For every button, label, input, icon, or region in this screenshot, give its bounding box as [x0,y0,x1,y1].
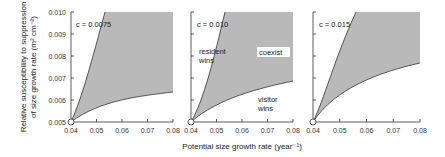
y-axis-title-line2: of size growth rate (m² cm⁻²) [29,16,38,118]
svg-text:0.006: 0.006 [48,97,66,104]
panel-1: 0.010 0.009 0.008 0.007 0.006 0.005 0.04… [48,9,179,134]
x-ticks [340,119,420,122]
x-ticks [97,119,174,122]
coexist-label: coexist [259,48,283,57]
x-axis-title: Potential size growth rate (year⁻¹) [182,142,302,151]
y-ticks [313,12,316,100]
resident-wins-label-2: wins [198,56,214,65]
y-tick-labels: 0.010 0.009 0.008 0.007 0.006 0.005 [48,9,66,126]
panel-2: 0.04 0.05 0.06 0.07 0.08 c = 0.010 resid… [184,12,300,134]
svg-text:0.08: 0.08 [166,127,180,134]
svg-text:0.005: 0.005 [48,119,66,126]
origin-marker [68,119,74,125]
x-tick-labels: 0.04 0.05 0.06 0.07 0.08 [184,127,300,134]
svg-text:0.04: 0.04 [306,127,320,134]
svg-text:0.08: 0.08 [286,127,300,134]
visitor-wins-label-2: wins [257,104,273,113]
resident-wins-label-1: resident [199,47,227,56]
y-ticks [71,12,74,100]
panel-3: 0.04 0.05 0.06 0.07 0.08 c = 0.015 [306,12,427,134]
origin-marker [310,119,316,125]
origin-marker [188,119,194,125]
svg-text:0.07: 0.07 [261,127,275,134]
x-tick-labels: 0.04 0.05 0.06 0.07 0.08 [64,127,180,134]
chart-figure: Relative susceptibility to suppression o… [0,0,445,157]
svg-text:0.07: 0.07 [141,127,155,134]
x-tick-labels: 0.04 0.05 0.06 0.07 0.08 [306,127,427,134]
y-axis-title: Relative susceptibility to suppression o… [19,2,38,133]
panel-2-c-label: c = 0.010 [197,20,228,29]
y-ticks [191,12,194,100]
svg-text:0.05: 0.05 [90,127,104,134]
panel-3-c-label: c = 0.015 [319,20,350,29]
svg-text:0.008: 0.008 [48,53,66,60]
svg-text:0.010: 0.010 [48,9,66,16]
svg-text:0.009: 0.009 [48,31,66,38]
svg-text:0.04: 0.04 [64,127,78,134]
svg-text:0.007: 0.007 [48,75,66,82]
panel-1-c-label: c = 0.0075 [76,20,111,29]
y-axis-title-line1: Relative susceptibility to suppression [19,2,28,133]
svg-text:0.06: 0.06 [115,127,129,134]
svg-text:0.05: 0.05 [333,127,347,134]
svg-text:0.05: 0.05 [210,127,224,134]
svg-text:0.08: 0.08 [413,127,427,134]
svg-text:0.06: 0.06 [360,127,374,134]
visitor-wins-label-1: visitor [258,95,278,104]
svg-text:0.06: 0.06 [235,127,249,134]
svg-text:0.07: 0.07 [386,127,400,134]
svg-text:0.04: 0.04 [184,127,198,134]
x-ticks [217,119,294,122]
